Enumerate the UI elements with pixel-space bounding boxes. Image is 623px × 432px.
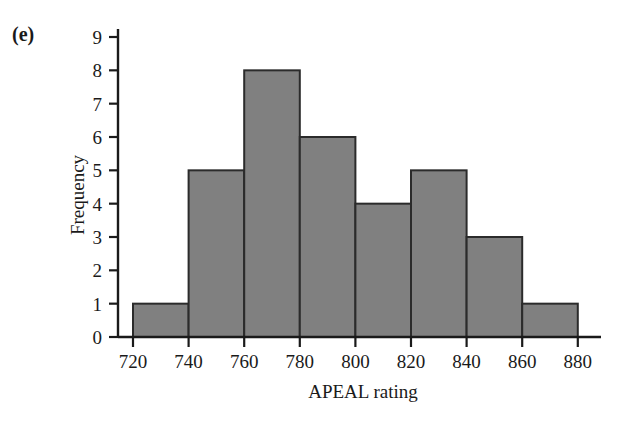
histogram-bar [411, 170, 467, 337]
histogram-bar [300, 137, 356, 337]
y-axis-tick-label: 3 [93, 227, 103, 248]
y-axis-tick-label: 8 [93, 60, 103, 81]
histogram-bar [189, 170, 245, 337]
x-axis-tick-label: 720 [119, 351, 148, 372]
y-axis-tick-label: 6 [93, 127, 103, 148]
x-axis-tick-label: 860 [508, 351, 537, 372]
x-axis-tick-label: 780 [286, 351, 315, 372]
histogram-bar [355, 204, 411, 337]
histogram-figure: (e) Frequency APEAL rating 0123456789720… [0, 0, 623, 432]
x-axis-tick-label: 740 [174, 351, 203, 372]
x-axis-tick-label: 760 [230, 351, 259, 372]
histogram-bar [133, 304, 189, 337]
y-axis-tick-label: 1 [93, 294, 103, 315]
x-axis-tick-label: 840 [452, 351, 481, 372]
x-axis-tick-label: 880 [564, 351, 593, 372]
y-axis-tick-label: 4 [93, 194, 103, 215]
y-axis-tick-label: 7 [93, 94, 103, 115]
y-axis-tick-label: 5 [93, 160, 103, 181]
plot-area: 0123456789720740760780800820840860880 [0, 0, 623, 432]
histogram-bar [467, 237, 523, 337]
y-axis-tick-label: 2 [93, 260, 103, 281]
histogram-bar [244, 70, 300, 337]
histogram-bar [522, 304, 578, 337]
x-axis-tick-label: 800 [341, 351, 370, 372]
y-axis-tick-label: 0 [93, 327, 103, 348]
x-axis-tick-label: 820 [397, 351, 426, 372]
y-axis-tick-label: 9 [93, 27, 103, 48]
bars-group [133, 70, 578, 337]
